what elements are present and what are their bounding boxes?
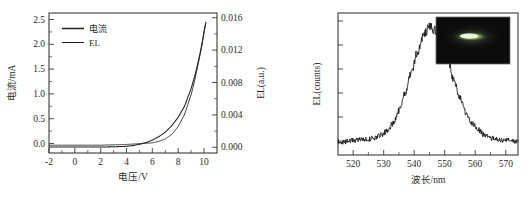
device-emission-photo — [436, 17, 510, 64]
right-x-tick-2: 540 — [407, 159, 422, 169]
figure-container: 0.0 0.5 1.0 1.5 2.0 2.5 电流/mA 0.000 0.00… — [0, 0, 532, 206]
right-y-axis-title: EL(counts) — [312, 63, 323, 106]
el-curve — [49, 25, 205, 145]
left-panel-right-y-axis-title: EL(a.u.) — [256, 67, 267, 99]
left-x-tick-2: 2 — [98, 157, 103, 167]
left-x-tick-5: 8 — [176, 157, 181, 167]
left-y-tick-0: 0.0 — [33, 139, 45, 149]
left-y-tick-5: 2.5 — [33, 15, 45, 25]
left-x-tick-4: 6 — [150, 157, 155, 167]
legend-label-current: 电流 — [89, 23, 107, 34]
left-x-axis-ticks — [49, 148, 204, 153]
panel-left: 0.0 0.5 1.0 1.5 2.0 2.5 电流/mA 0.000 0.00… — [6, 13, 267, 182]
left-y-tick-3: 1.5 — [33, 64, 45, 74]
left-y-axis-ticks — [49, 20, 54, 144]
legend-label-el: EL — [89, 38, 100, 48]
left-panel-right-y-tick-0: 0.000 — [221, 142, 243, 152]
panel-right: EL(counts) 520 530 540 550 560 570 — [312, 13, 518, 185]
right-x-tick-3: 550 — [438, 159, 453, 169]
left-x-tick-6: 10 — [199, 157, 209, 167]
left-x-tick-1: 0 — [72, 157, 77, 167]
figure-svg: 0.0 0.5 1.0 1.5 2.0 2.5 电流/mA 0.000 0.00… — [0, 0, 532, 206]
right-x-tick-4: 560 — [468, 159, 483, 169]
left-x-axis-title: 电压/V — [118, 171, 148, 182]
current-curve — [49, 22, 206, 147]
left-panel-right-y-tick-1: 0.004 — [221, 110, 243, 120]
right-x-tick-0: 520 — [346, 159, 361, 169]
left-y-axis-title: 电流/mA — [6, 64, 17, 101]
left-panel-right-y-tick-4: 0.016 — [221, 13, 243, 23]
inset-emission-core — [460, 33, 478, 38]
left-plot-frame — [49, 13, 217, 153]
left-panel-right-y-tick-3: 0.012 — [221, 45, 243, 55]
right-y-axis-ticks — [338, 21, 343, 141]
left-x-tick-0: -2 — [45, 157, 53, 167]
left-x-tick-3: 4 — [124, 157, 129, 167]
legend: 电流 EL — [62, 23, 107, 48]
right-x-axis-title: 波长/nm — [411, 174, 446, 185]
left-y-tick-1: 0.5 — [33, 114, 45, 124]
left-panel-right-y-tick-2: 0.008 — [221, 78, 243, 88]
right-x-tick-5: 570 — [499, 159, 514, 169]
left-y-tick-2: 1.0 — [33, 89, 45, 99]
left-y-tick-4: 2.0 — [33, 39, 45, 49]
right-x-axis-ticks — [353, 150, 506, 155]
left-panel-right-y-ticks — [212, 18, 217, 148]
right-x-tick-1: 530 — [377, 159, 392, 169]
